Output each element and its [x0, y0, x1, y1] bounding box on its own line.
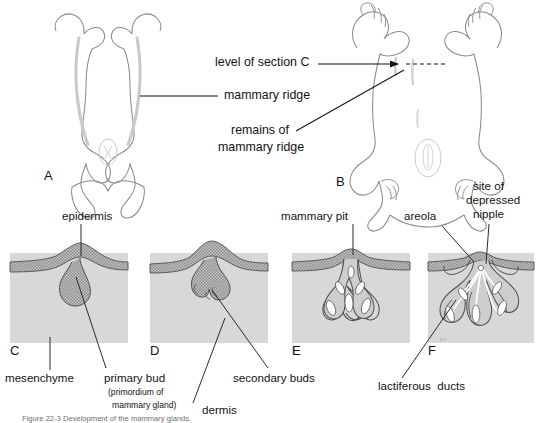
- panel-letter-c: C: [10, 343, 19, 358]
- label-lactiferous-ducts: lactiferous ducts: [378, 379, 465, 392]
- label-mammary-ridge: mammary ridge: [224, 89, 310, 103]
- panel-e-section: [292, 249, 410, 343]
- label-primary-bud-sub-line2: mammary gland): [112, 401, 176, 411]
- label-site-of-depressed-nipple-line1: site of: [473, 179, 504, 192]
- label-epidermis: epidermis: [62, 209, 112, 222]
- label-level-of-section-c: level of section C: [215, 56, 309, 70]
- label-mammary-pit: mammary pit: [281, 209, 348, 222]
- panel-f-section: [428, 252, 534, 343]
- figure-caption: Figure 22-3 Development of the mammary g…: [22, 414, 191, 423]
- label-dermis: dermis: [202, 403, 237, 416]
- label-secondary-buds: secondary buds: [233, 371, 315, 384]
- panel-c-section: [10, 243, 128, 343]
- label-primary-bud: primary bud: [104, 371, 165, 384]
- label-areola: areola: [404, 209, 436, 222]
- panel-letter-d: D: [150, 343, 159, 358]
- panel-letter-a: A: [44, 168, 53, 183]
- label-remains-of-mammary-ridge-line1: remains of: [231, 124, 289, 138]
- label-mesenchyme: mesenchyme: [5, 371, 74, 384]
- panel-a-embryo: [55, 14, 161, 218]
- panel-d-section: [150, 241, 268, 343]
- label-remains-of-mammary-ridge-line2: mammary ridge: [218, 141, 304, 155]
- label-primary-bud-sub-line1: (primordium of: [108, 388, 163, 398]
- label-site-of-depressed-nipple-line3: nipple: [473, 207, 504, 220]
- panel-letter-f: F: [428, 343, 436, 358]
- panel-letter-b: B: [336, 174, 345, 189]
- label-site-of-depressed-nipple-line2: depressed: [466, 193, 520, 206]
- svg-text:E: E: [292, 343, 301, 358]
